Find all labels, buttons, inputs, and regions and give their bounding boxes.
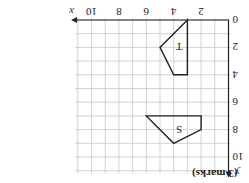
grid-lines xyxy=(75,18,230,173)
coordinate-grid: 2468100246810xy TS xyxy=(0,0,249,183)
x-tick-label: 8 xyxy=(116,6,122,18)
x-tick-label: 4 xyxy=(170,6,176,18)
shape-label: S xyxy=(176,124,182,136)
x-tick-label: 10 xyxy=(86,6,98,18)
y-tick-label: 6 xyxy=(232,96,238,108)
y-tick-label: 4 xyxy=(232,69,238,81)
diagram-stage: 2468100246810xy TS (3 marks) xyxy=(0,0,249,183)
x-axis-label: x xyxy=(69,6,75,18)
marks-label: (3 marks) xyxy=(192,168,238,180)
y-tick-label: 0 xyxy=(232,14,238,26)
tick-labels: 2468100246810xy xyxy=(69,6,243,179)
x-tick-label: 2 xyxy=(198,6,204,18)
y-tick-label: 2 xyxy=(233,41,239,53)
axes xyxy=(71,17,231,177)
x-tick-label: 6 xyxy=(143,6,149,18)
shape-label: T xyxy=(176,41,183,53)
y-tick-label: 8 xyxy=(232,124,238,136)
y-tick-label: 10 xyxy=(232,151,244,163)
